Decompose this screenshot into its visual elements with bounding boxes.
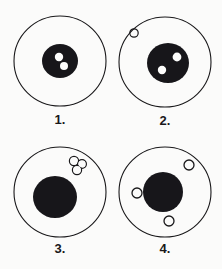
- cytoplasm-body-4a: [184, 160, 194, 170]
- cell-panel-2: [113, 14, 217, 114]
- panel-label-3: 3.: [8, 241, 112, 256]
- cell-panel-1: [8, 12, 112, 112]
- cell-panel-3: [8, 143, 112, 243]
- cytoplasm-body-2a: [130, 29, 138, 37]
- cytoplasm-body-4c: [164, 216, 174, 226]
- nucleus-vacuole-1a: [55, 53, 63, 61]
- panel-label-4: 4.: [113, 241, 217, 256]
- cell-drawing-2: [113, 14, 217, 114]
- nucleus-vacuole-2b: [158, 66, 166, 74]
- cytoplasm-body-4b: [132, 188, 142, 198]
- cell-nucleus-3: [33, 176, 77, 218]
- cell-panel-4: [113, 143, 217, 243]
- panel-label-1: 1.: [8, 112, 112, 127]
- cell-drawing-4: [113, 143, 217, 243]
- nucleus-vacuole-2a: [173, 53, 182, 62]
- cell-nucleus-2: [147, 43, 189, 83]
- panel-label-2: 2.: [113, 113, 217, 128]
- nucleus-vacuole-1b: [60, 62, 68, 70]
- cell-nucleus-4: [143, 172, 183, 212]
- cell-diagram-figure: 1. 2. 3.: [0, 0, 222, 269]
- cell-drawing-3: [8, 143, 112, 243]
- cytoplasm-trefoil-body-3: [69, 156, 86, 174]
- cell-drawing-1: [8, 12, 112, 112]
